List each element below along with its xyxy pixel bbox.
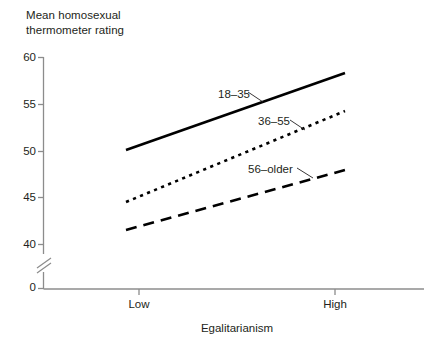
x-tick-marks bbox=[139, 289, 335, 295]
leader-line-36-55 bbox=[290, 120, 305, 130]
y-axis-break-icon bbox=[37, 258, 51, 273]
plot-area bbox=[0, 0, 445, 345]
leader-line-18-35 bbox=[248, 92, 263, 102]
series-line-36-55 bbox=[126, 111, 345, 202]
series-line-18-35 bbox=[126, 73, 345, 150]
leader-line-56-older bbox=[297, 168, 313, 178]
y-tick-marks bbox=[38, 58, 44, 289]
chart-figure: Mean homosexual thermometer rating 60 55… bbox=[0, 0, 445, 345]
series-line-56-older bbox=[126, 170, 345, 230]
